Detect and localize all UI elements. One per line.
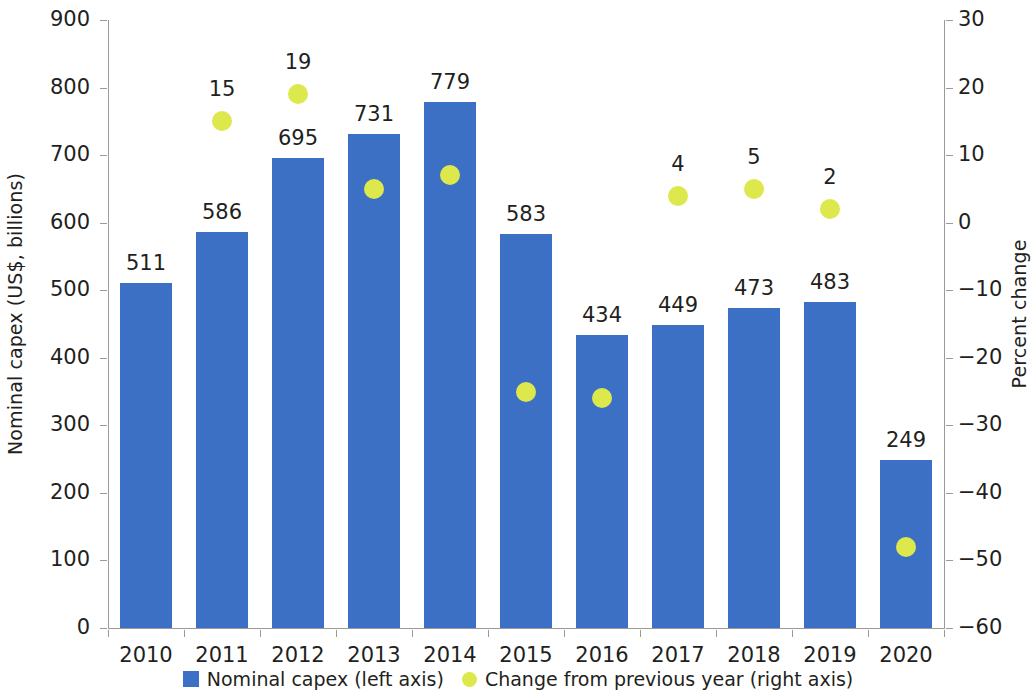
bar [120,283,172,628]
bar-value-label: 249 [861,430,951,451]
legend-square-swatch-icon [183,671,199,687]
y-axis-left-tick-label: 200 [26,482,90,503]
data-point-dot [364,179,384,199]
y-axis-right-tick-mark [946,155,953,156]
bar [804,302,856,628]
x-axis-tick-mark [184,630,185,637]
data-point-dot [668,186,688,206]
y-axis-right-tick-label: −40 [958,482,1022,503]
chart-container: Nominal capex (US$, billions) Percent ch… [0,0,1036,698]
bar [348,134,400,628]
y-axis-left-tick-mark [100,290,107,291]
y-axis-left-tick-mark [100,223,107,224]
y-axis-left-tick-mark [100,88,107,89]
data-point-dot [896,537,916,557]
y-axis-left-tick-mark [100,358,107,359]
y-axis-left-line [108,20,109,629]
y-axis-left-tick-label: 100 [26,549,90,570]
x-axis-tick-mark [792,630,793,637]
data-point-value-label: 2 [785,167,875,188]
y-axis-left-tick-label: 800 [26,77,90,98]
data-point-dot [744,179,764,199]
data-point-value-label: 19 [253,52,343,73]
x-axis-tick-mark [716,630,717,637]
y-axis-right-tick-mark [946,223,953,224]
bar-value-label: 511 [101,253,191,274]
x-axis-tick-mark [488,630,489,637]
legend-item[interactable]: Change from previous year (right axis) [462,668,853,690]
bar-value-label: 586 [177,202,267,223]
y-axis-right-tick-label: 0 [958,212,1022,233]
y-axis-left-tick-label: 300 [26,414,90,435]
y-axis-right-tick-label: −60 [958,617,1022,638]
bar [272,158,324,628]
y-axis-left-tick-label: 0 [26,617,90,638]
y-axis-right-tick-label: 10 [958,144,1022,165]
y-axis-right-tick-mark [946,20,953,21]
bar-value-label: 731 [329,104,419,125]
y-axis-right-tick-mark [946,358,953,359]
y-axis-right-tick-label: −50 [958,549,1022,570]
bar-value-label: 779 [405,72,495,93]
x-axis-tick-label: 2020 [861,645,951,666]
legend-label: Change from previous year (right axis) [485,668,853,690]
y-axis-left-title-text: Nominal capex (US$, billions) [4,173,26,455]
y-axis-left-tick-mark [100,20,107,21]
y-axis-right-tick-mark [946,493,953,494]
bar [728,308,780,628]
data-point-dot [516,382,536,402]
y-axis-left-tick-mark [100,425,107,426]
y-axis-left-tick-label: 900 [26,9,90,30]
y-axis-right-tick-label: 20 [958,77,1022,98]
data-point-value-label: 5 [709,147,799,168]
y-axis-right-line [944,20,945,629]
y-axis-left-tick-label: 400 [26,347,90,368]
data-point-dot [820,199,840,219]
y-axis-right-tick-label: −20 [958,347,1022,368]
y-axis-left-tick-mark [100,493,107,494]
y-axis-right-tick-label: 30 [958,9,1022,30]
x-axis-tick-mark [260,630,261,637]
data-point-value-label: 15 [177,79,267,100]
bar-value-label: 483 [785,272,875,293]
legend-label: Nominal capex (left axis) [207,668,444,690]
y-axis-right-tick-mark [946,88,953,89]
y-axis-left-tick-mark [100,628,107,629]
y-axis-left-tick-label: 600 [26,212,90,233]
legend-circle-swatch-icon [462,672,477,687]
x-axis-tick-mark [640,630,641,637]
bar [196,232,248,628]
bar [500,234,552,628]
y-axis-left-tick-label: 500 [26,279,90,300]
x-axis-tick-mark [944,630,945,637]
x-axis-tick-mark [336,630,337,637]
y-axis-left-tick-mark [100,560,107,561]
x-axis-tick-mark [868,630,869,637]
y-axis-right-tick-label: −10 [958,279,1022,300]
y-axis-right-tick-mark [946,560,953,561]
data-point-dot [212,111,232,131]
x-axis-line [108,628,945,629]
y-axis-right-tick-mark [946,290,953,291]
x-axis-tick-mark [412,630,413,637]
chart-legend: Nominal capex (left axis)Change from pre… [0,668,1036,690]
y-axis-left-tick-mark [100,155,107,156]
y-axis-left-tick-label: 700 [26,144,90,165]
x-axis-tick-mark [108,630,109,637]
y-axis-right-tick-mark [946,425,953,426]
bar [576,335,628,628]
y-axis-right-tick-mark [946,628,953,629]
y-axis-right-tick-label: −30 [958,414,1022,435]
data-point-dot [288,84,308,104]
x-axis-tick-mark [564,630,565,637]
legend-item[interactable]: Nominal capex (left axis) [183,668,444,690]
bar-value-label: 695 [253,128,343,149]
bar-value-label: 583 [481,204,571,225]
bar [652,325,704,628]
